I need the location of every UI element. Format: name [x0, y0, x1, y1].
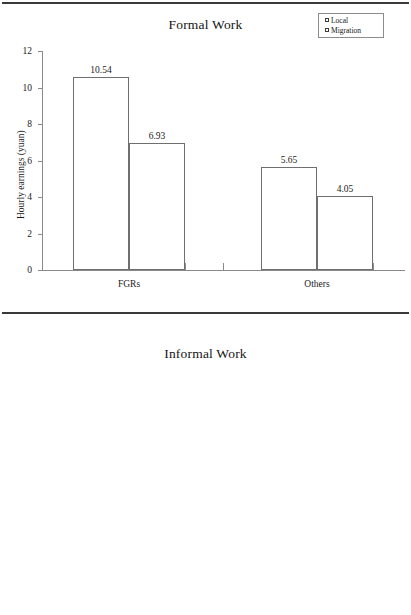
- y-axis-line: [42, 51, 43, 271]
- bar-fgrs-local: [73, 77, 129, 270]
- y-tick-10: 10: [38, 88, 42, 89]
- bar-others-migration: [317, 196, 373, 270]
- x-tick: [373, 263, 374, 271]
- x-category-label-fgrs: FGRs: [118, 279, 140, 289]
- bar-value-others-migration: 4.05: [337, 184, 354, 194]
- legend-label-local: Local: [331, 16, 348, 25]
- legend-label-migration: Migration: [331, 26, 361, 35]
- y-tick-2: 2: [38, 234, 42, 235]
- bar-others-local: [261, 167, 317, 270]
- bar-value-fgrs-local: 10.54: [90, 65, 111, 75]
- y-tick-6: 6: [38, 161, 42, 162]
- y-tick-0: 0: [38, 270, 42, 271]
- plot-area-formal: 0 2 4 6 8 10 12 10.54 6.93 5.65: [42, 51, 405, 271]
- bar-value-others-local: 5.65: [281, 155, 298, 165]
- chart-title-informal: Informal Work: [0, 346, 411, 362]
- legend-formal: Local Migration: [318, 13, 384, 38]
- open-square-icon: [325, 28, 329, 32]
- y-tick-label: 8: [27, 119, 32, 129]
- y-tick-label: 6: [27, 156, 32, 166]
- panel-divider-rule: [2, 312, 409, 314]
- y-tick-8: 8: [38, 124, 42, 125]
- x-category-label-others: Others: [304, 279, 329, 289]
- y-tick-label: 10: [23, 83, 33, 93]
- y-tick-label: 12: [23, 46, 33, 56]
- bar-value-fgrs-migration: 6.93: [149, 131, 166, 141]
- y-tick-12: 12: [38, 51, 42, 52]
- y-tick-label: 2: [27, 229, 32, 239]
- y-axis-label-formal: Hourly earnings (yuan): [16, 130, 26, 219]
- y-tick-label: 4: [27, 192, 32, 202]
- x-tick: [185, 263, 186, 271]
- figure-page: Formal Work Local Migration Hourly earni…: [0, 0, 411, 615]
- y-tick-4: 4: [38, 197, 42, 198]
- bar-fgrs-migration: [129, 143, 185, 270]
- chart-panel-formal: Formal Work Local Migration Hourly earni…: [0, 4, 411, 310]
- legend-entry-local: Local: [325, 16, 383, 26]
- chart-panel-informal: Informal Work Local Migration Hourly ear…: [0, 316, 411, 615]
- y-tick-label: 0: [27, 265, 32, 275]
- open-square-icon: [325, 18, 329, 22]
- x-tick-category-divider: [223, 263, 224, 271]
- legend-entry-migration: Migration: [325, 26, 383, 36]
